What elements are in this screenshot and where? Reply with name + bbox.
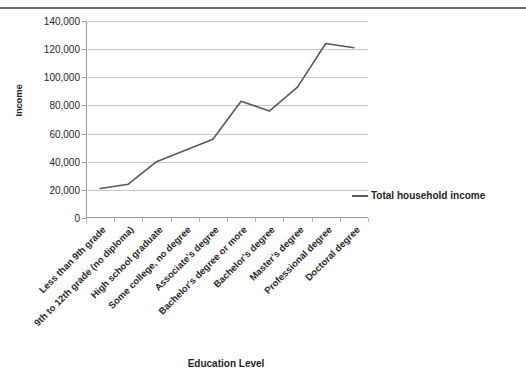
- legend-line-swatch: [352, 195, 368, 197]
- line-chart: Income 140,000120,000100,00080,00060,000…: [0, 0, 526, 380]
- data-series-layer: [86, 21, 368, 218]
- y-axis-tick-label: 40,000: [22, 156, 80, 167]
- chart-legend: Total household income: [352, 190, 485, 201]
- y-axis-tick-label: 100,000: [22, 72, 80, 83]
- chart-title-strip: [0, 0, 526, 7]
- series-line: [100, 44, 354, 189]
- y-axis-tick-label: 120,000: [22, 44, 80, 55]
- legend-item-label: Total household income: [371, 190, 485, 201]
- y-axis-tick-label: 60,000: [22, 128, 80, 139]
- x-axis-title: Education Level: [96, 358, 356, 369]
- x-axis-category-labels: Less than 9th grade9th to 12th grade (no…: [0, 222, 400, 332]
- title-divider: [0, 7, 526, 9]
- plot-area: [86, 21, 368, 218]
- y-axis-tick-labels: 140,000120,000100,00080,00060,00040,0002…: [22, 15, 80, 225]
- y-axis-tick-label: 80,000: [22, 100, 80, 111]
- y-axis-tick-label: 20,000: [22, 184, 80, 195]
- y-axis-tick-label: 140,000: [22, 16, 80, 27]
